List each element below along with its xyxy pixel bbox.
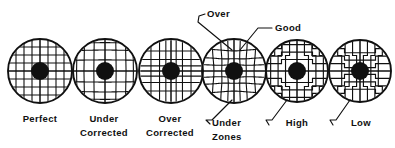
pattern-high[interactable] <box>266 40 328 102</box>
caption-over-1: Over <box>158 113 181 124</box>
pattern-over-corrected[interactable] <box>139 39 203 103</box>
caption-over-2: Corrected <box>146 127 194 138</box>
pupil-under-corrected <box>96 62 114 80</box>
figure-canvas: PerfectUnderCorrectedOverCorrectedHighLo… <box>0 0 395 148</box>
pupil-zones <box>225 62 243 80</box>
optical-correction-diagram: PerfectUnderCorrectedOverCorrectedHighLo… <box>0 0 395 148</box>
caption-under-2: Corrected <box>80 127 128 138</box>
pupil-over-corrected <box>162 62 180 80</box>
pattern-zones[interactable] <box>202 39 266 103</box>
pattern-under-corrected[interactable] <box>73 39 137 103</box>
pupil-high <box>288 62 306 80</box>
pattern-low[interactable] <box>329 40 391 102</box>
caption-low: Low <box>351 117 371 128</box>
callout-high-leader-leader <box>266 100 287 125</box>
pattern-circles-layer <box>8 39 391 103</box>
callout-over-label: Over <box>207 8 230 19</box>
caption-high: High <box>286 117 309 128</box>
callout-under-zones-label: Under <box>212 117 241 128</box>
caption-under-1: Under <box>89 113 118 124</box>
labels-layer: PerfectUnderCorrectedOverCorrectedHighLo… <box>23 8 372 142</box>
pupil-low <box>351 62 369 80</box>
pattern-perfect[interactable] <box>8 39 72 103</box>
callout-under-zones-label-line2: Zones <box>212 131 242 142</box>
caption-perfect: Perfect <box>23 113 58 124</box>
callout-low-leader-leader <box>330 100 350 125</box>
pupil-perfect <box>31 62 49 80</box>
callout-good-label: Good <box>275 22 301 33</box>
